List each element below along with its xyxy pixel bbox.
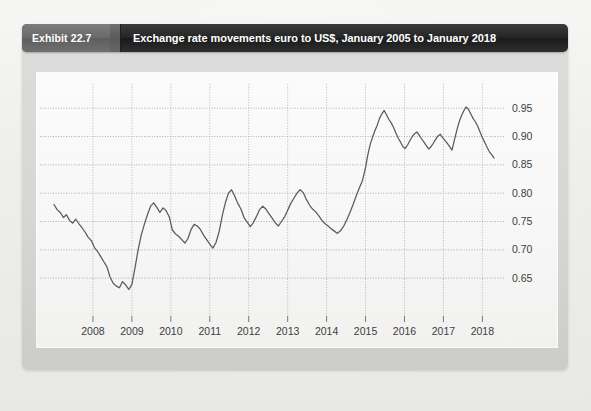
data-series-group bbox=[54, 107, 494, 289]
y-tick-label: 0.90 bbox=[512, 130, 533, 142]
exhibit-number-badge: Exhibit 22.7 bbox=[22, 24, 110, 52]
x-tick-label: 2011 bbox=[198, 325, 221, 337]
horizontal-gridlines bbox=[40, 108, 504, 278]
x-tick-label: 2015 bbox=[354, 325, 378, 337]
data-series-line bbox=[54, 107, 494, 289]
y-tick-label: 0.70 bbox=[512, 243, 533, 255]
y-tick-label: 0.85 bbox=[512, 158, 533, 170]
exhibit-title: Exchange rate movements euro to US$, Jan… bbox=[121, 24, 568, 52]
x-tick-label: 2016 bbox=[393, 325, 417, 337]
x-tick-label: 2009 bbox=[120, 325, 144, 337]
x-axis-tick-labels: 2008200920102011201220132014201520162017… bbox=[81, 325, 494, 337]
x-tick-label: 2017 bbox=[432, 325, 456, 337]
page-root: Exhibit 22.7 Exchange rate movements eur… bbox=[0, 0, 591, 411]
x-tick-label: 2018 bbox=[471, 325, 495, 337]
x-tick-label: 2012 bbox=[237, 325, 261, 337]
exhibit-header-bar: Exhibit 22.7 Exchange rate movements eur… bbox=[22, 24, 568, 52]
vertical-gridlines bbox=[93, 84, 482, 322]
y-tick-label: 0.80 bbox=[512, 187, 533, 199]
line-chart: 0.950.900.850.800.750.700.65 20082009201… bbox=[36, 72, 558, 348]
y-axis-tick-labels: 0.950.900.850.800.750.700.65 bbox=[512, 102, 533, 284]
header-divider bbox=[110, 24, 121, 52]
x-tick-label: 2014 bbox=[315, 325, 339, 337]
y-tick-label: 0.65 bbox=[512, 272, 533, 284]
x-tick-label: 2010 bbox=[159, 325, 183, 337]
x-tick-label: 2008 bbox=[81, 325, 105, 337]
y-tick-label: 0.95 bbox=[512, 102, 533, 114]
y-tick-label: 0.75 bbox=[512, 215, 533, 227]
x-tick-label: 2013 bbox=[276, 325, 300, 337]
